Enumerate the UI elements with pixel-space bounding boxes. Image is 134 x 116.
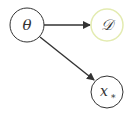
edge-theta-to-xstar (40, 37, 94, 80)
node-xstar-subscript: ∗ (110, 91, 116, 101)
node-xstar-label: x (100, 83, 108, 99)
graphical-model: θ 𝒟 x ∗ (0, 0, 134, 116)
node-theta: θ (10, 8, 44, 42)
node-xstar: x ∗ (91, 76, 123, 108)
node-D: 𝒟 (91, 9, 123, 41)
node-theta-label: θ (22, 16, 31, 34)
